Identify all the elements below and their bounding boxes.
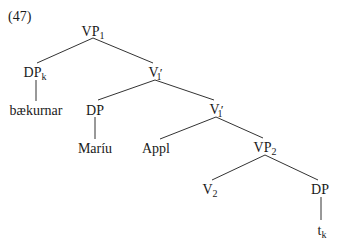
tree-edge	[98, 80, 155, 100]
node-label: V	[202, 182, 212, 197]
tree-node-v2: V2	[202, 183, 217, 197]
node-label: Maríu	[78, 141, 112, 156]
syntax-tree-diagram: (47) VP1DPkV′1bækurnarDPV′1MaríuApplVP2V…	[0, 0, 342, 249]
tree-node-vp1: VP1	[82, 25, 105, 39]
tree-node-v1bar_b: V′1	[210, 103, 223, 117]
tree-node-vp2: VP2	[254, 141, 277, 155]
node-subscript: 1	[217, 108, 222, 119]
node-subscript: 1	[156, 71, 161, 82]
tree-node-v1bar_a: V′1	[149, 66, 162, 80]
node-label: DP	[86, 103, 104, 118]
node-label: VP	[254, 140, 272, 155]
tree-node-appl: Appl	[142, 142, 170, 156]
tree-node-dp_low: DP	[311, 183, 329, 197]
node-label: Appl	[142, 141, 170, 156]
node-subscript: 2	[271, 146, 276, 157]
node-label: bækurnar	[10, 103, 63, 118]
tree-edge	[265, 155, 318, 180]
tree-node-baekurnar: bækurnar	[10, 104, 63, 118]
node-subscript: 1	[99, 30, 104, 41]
node-subscript: k	[41, 71, 46, 82]
tree-node-dpk: DPk	[24, 66, 47, 80]
node-subscript: 2	[213, 188, 218, 199]
tree-node-tk: tk	[318, 224, 327, 238]
node-subscript: k	[321, 229, 326, 240]
tree-node-mariu: Maríu	[78, 142, 112, 156]
tree-edge	[155, 80, 214, 100]
node-label: VP	[82, 24, 100, 39]
tree-node-dp_mariu: DP	[86, 104, 104, 118]
tree-edge	[216, 117, 263, 138]
node-label: DP	[311, 182, 329, 197]
tree-edge	[212, 155, 265, 180]
node-label: DP	[24, 65, 42, 80]
tree-edge	[160, 117, 216, 139]
tree-edge	[37, 38, 93, 63]
tree-edges	[0, 0, 342, 249]
tree-edge	[93, 38, 153, 63]
